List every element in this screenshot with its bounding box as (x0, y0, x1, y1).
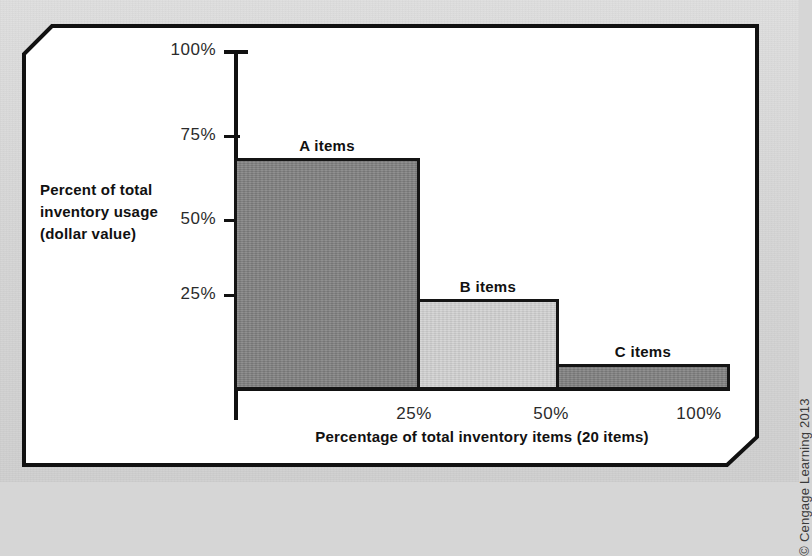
bar-c-items (556, 364, 730, 390)
x-tick-label-25: 25% (396, 404, 432, 424)
y-tick-label-100: 100% (171, 40, 216, 60)
bar-a-items (234, 158, 420, 390)
y-tick-75 (224, 135, 240, 138)
abc-analysis-chart: 100% 75% 50% 25% A items B items C items… (22, 24, 759, 467)
bar-b-items (417, 299, 559, 390)
bar-b-texture (420, 302, 556, 387)
y-tick-label-25: 25% (180, 284, 216, 304)
y-axis-title-line-3: (dollar value) (40, 223, 158, 245)
x-axis-title: Percentage of total inventory items (20 … (234, 428, 730, 445)
y-axis-title-line-2: inventory usage (40, 201, 158, 223)
x-tick-label-100: 100% (676, 404, 721, 424)
bar-c-texture (559, 367, 727, 387)
x-tick-label-50: 50% (533, 404, 569, 424)
bar-a-texture (237, 161, 417, 387)
y-tick-label-75: 75% (180, 125, 216, 145)
y-tick-label-50: 50% (180, 209, 216, 229)
bar-label-a-items: A items (299, 137, 355, 154)
y-axis-title: Percent of total inventory usage (dollar… (40, 179, 158, 245)
y-tick-100 (224, 50, 248, 54)
bar-label-c-items: C items (615, 343, 671, 360)
bar-label-b-items: B items (460, 278, 516, 295)
y-axis-title-line-1: Percent of total (40, 179, 158, 201)
copyright-credit: © Cengage Learning 2013 (797, 398, 812, 555)
